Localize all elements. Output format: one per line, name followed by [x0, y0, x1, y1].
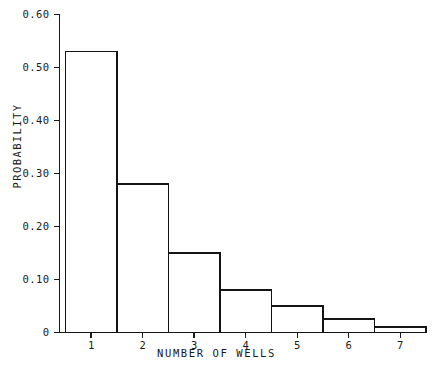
bar-4 — [220, 290, 272, 332]
y-tick-label: 0.30 — [0, 167, 50, 179]
chart-plot-area — [0, 0, 433, 368]
x-axis-title: NUMBER OF WELLS — [0, 347, 433, 359]
y-tick-label: 0 — [0, 326, 50, 338]
y-tick-label: 0.10 — [0, 273, 50, 285]
bar-2 — [117, 184, 169, 332]
bar-7 — [374, 327, 426, 332]
bars-group — [65, 52, 426, 333]
y-tick-label: 0.60 — [0, 8, 50, 20]
bar-1 — [65, 52, 117, 333]
bar-3 — [168, 253, 220, 333]
y-tick-label: 0.20 — [0, 220, 50, 232]
y-tick-label: 0.40 — [0, 114, 50, 126]
bar-5 — [271, 306, 323, 333]
y-axis-title: PROBABILITY — [11, 91, 23, 201]
y-tick-label: 0.50 — [0, 61, 50, 73]
probability-histogram-chart: 0.600.500.400.300.200.100 1234567 NUMBER… — [0, 0, 433, 368]
y-tick-marks — [54, 15, 60, 333]
bar-6 — [323, 319, 375, 332]
